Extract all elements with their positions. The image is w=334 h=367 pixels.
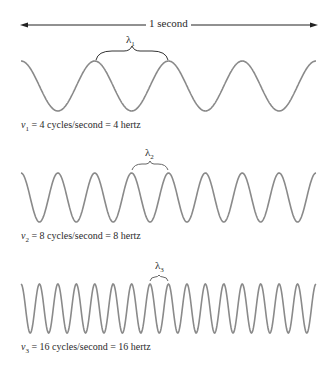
- caption-wave1: ν1 = 4 cycles/second = 4 hertz: [21, 119, 141, 133]
- lambda3-brace: [150, 275, 168, 281]
- lambda1-label: λ1: [126, 33, 135, 48]
- caption-wave2: ν2 = 8 cycles/second = 8 hertz: [21, 230, 141, 244]
- lambda2-brace: [132, 161, 168, 170]
- wave-16hz: [21, 284, 316, 333]
- caption-wave3: ν3 = 16 cycles/second = 16 hertz: [21, 341, 151, 355]
- wave-4hz: [21, 61, 316, 111]
- lambda3-label: λ3: [155, 259, 164, 274]
- wave-8hz: [21, 173, 316, 222]
- lambda2-label: λ2: [145, 146, 154, 161]
- one-second-label: 1 second: [146, 17, 191, 29]
- wave-diagram: [0, 0, 334, 367]
